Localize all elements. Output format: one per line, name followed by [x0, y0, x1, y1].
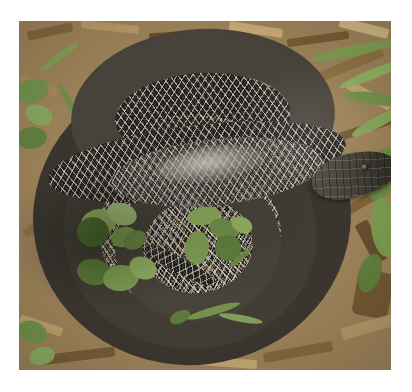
page-canvas: · [0, 0, 412, 392]
snake-body [19, 21, 391, 370]
snake-photograph [19, 21, 391, 370]
page-top-mark: · [195, 2, 203, 10]
